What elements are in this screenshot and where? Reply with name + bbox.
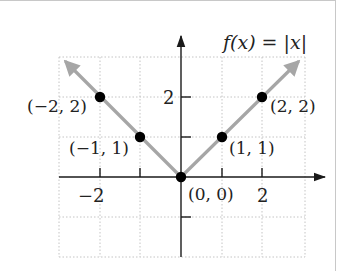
point-label-neg2-2: (−2, 2) — [27, 96, 87, 116]
x-tick-label-neg2: −2 — [78, 185, 105, 206]
y-tick-label-2: 2 — [163, 87, 174, 108]
point-neg2-2 — [95, 92, 105, 102]
point-1-1 — [217, 132, 227, 142]
point-label-2-2: (2, 2) — [270, 96, 316, 116]
point-2-2 — [257, 92, 267, 102]
point-label-1-1: (1, 1) — [229, 138, 275, 158]
absolute-value-graph: f(x) = |x| 2 −2 2 (−2, 2) (−1, 1) (0, 0)… — [0, 0, 340, 272]
function-title: f(x) = |x| — [221, 31, 307, 54]
point-0-0 — [176, 172, 186, 182]
x-tick-label-2: 2 — [257, 185, 268, 206]
curve-abs-x — [66, 62, 298, 177]
point-label-0-0: (0, 0) — [188, 184, 234, 204]
point-neg1-1 — [135, 132, 145, 142]
point-label-neg1-1: (−1, 1) — [69, 138, 129, 158]
